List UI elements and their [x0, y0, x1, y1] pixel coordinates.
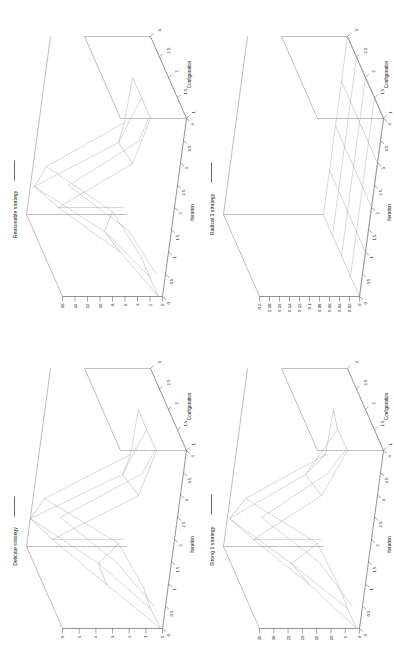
svg-text:1.5: 1.5	[371, 565, 376, 572]
svg-text:1.5: 1.5	[371, 233, 376, 240]
svg-text:1: 1	[143, 634, 148, 637]
svg-text:0.5: 0.5	[168, 609, 173, 616]
svg-text:0.14: 0.14	[287, 302, 292, 311]
svg-text:1.5: 1.5	[379, 419, 384, 426]
svg-text:2.5: 2.5	[377, 520, 382, 527]
svg-text:5: 5	[342, 634, 347, 637]
svg-text:0: 0	[165, 633, 170, 636]
panel-title-radical3: Radical 3 strategy	[208, 193, 214, 235]
svg-text:2.5: 2.5	[165, 46, 170, 53]
svg-text:2.5: 2.5	[180, 520, 185, 527]
svg-text:1: 1	[190, 110, 195, 113]
x-axis-ticks-reasonable	[162, 118, 190, 299]
svg-text:4: 4	[387, 454, 392, 457]
svg-text:2.5: 2.5	[362, 46, 367, 53]
x-axis-ticks-radical3	[359, 118, 387, 299]
svg-text:0.08: 0.08	[317, 302, 322, 311]
panel-strong1-rotated-content: Strong 1 strategy	[197, 332, 394, 664]
svg-text:3.5: 3.5	[383, 144, 388, 151]
svg-text:3: 3	[380, 166, 385, 169]
y-axis-ticks-reasonable	[150, 33, 189, 118]
svg-text:1.5: 1.5	[182, 419, 187, 426]
svg-text:6: 6	[122, 302, 127, 305]
mesh-surface-reasonable	[34, 77, 162, 296]
z-axis-tick-labels-reasonable: 0 2 4 6 8 10 12 14 16	[60, 302, 165, 307]
svg-text:4: 4	[190, 454, 195, 457]
svg-text:0: 0	[357, 634, 362, 637]
svg-text:2: 2	[370, 69, 375, 72]
svg-text:4: 4	[93, 634, 98, 637]
axes-frame-delicate	[26, 368, 186, 628]
svg-text:3: 3	[353, 360, 358, 363]
svg-text:1.5: 1.5	[174, 565, 179, 572]
svg-text:14: 14	[72, 302, 77, 307]
svg-text:10: 10	[328, 634, 333, 639]
svg-text:1.5: 1.5	[174, 233, 179, 240]
svg-text:1: 1	[190, 442, 195, 445]
svg-text:3: 3	[183, 166, 188, 169]
svg-text:0.5: 0.5	[168, 277, 173, 284]
plot-reasonable: Reasonable strategy	[0, 0, 197, 332]
y-axis-ticks-delicate	[150, 365, 189, 450]
svg-text:15: 15	[314, 634, 319, 639]
svg-text:3.5: 3.5	[186, 476, 191, 483]
svg-text:0.02: 0.02	[347, 302, 352, 311]
panel-delicate-rotated-content: Delicate strategy	[0, 332, 197, 664]
plot-delicate: Delicate strategy	[0, 332, 197, 664]
svg-text:0: 0	[362, 301, 367, 304]
svg-text:0.5: 0.5	[365, 609, 370, 616]
panel-radical3: Radical 3 strategy	[197, 0, 394, 332]
svg-text:2: 2	[374, 211, 379, 214]
svg-text:12: 12	[85, 302, 90, 307]
svg-text:5: 5	[76, 634, 81, 637]
panel-title-strong1: Strong 1 strategy	[208, 526, 214, 566]
svg-text:16: 16	[60, 302, 65, 307]
svg-text:0.5: 0.5	[365, 277, 370, 284]
svg-text:2: 2	[374, 543, 379, 546]
axes-frame-reasonable	[26, 36, 186, 296]
panel-strong1: Strong 1 strategy	[197, 332, 394, 664]
svg-text:0: 0	[160, 302, 165, 305]
svg-text:1.5: 1.5	[379, 87, 384, 94]
z-axis-tick-labels-radical3: 0 0.02 0.04 0.06 0.08 0.1 0.12 0.14 0.16…	[257, 302, 362, 311]
svg-text:20: 20	[299, 634, 304, 639]
svg-text:0: 0	[160, 634, 165, 637]
y-axis-title-reasonable: Configuration	[186, 60, 191, 88]
svg-text:1: 1	[387, 442, 392, 445]
svg-text:1: 1	[387, 110, 392, 113]
y-axis-ticks-strong1	[347, 365, 386, 450]
x-axis-title-radical3: Iteration	[386, 203, 391, 220]
svg-text:4: 4	[387, 122, 392, 125]
plot-strong1: Strong 1 strategy	[197, 332, 394, 664]
svg-text:0.04: 0.04	[337, 302, 342, 311]
svg-text:30: 30	[271, 634, 276, 639]
axes-frame-strong1	[223, 368, 383, 628]
svg-text:0: 0	[165, 301, 170, 304]
y-axis-title-radical3: Configuration	[383, 60, 388, 88]
svg-text:3: 3	[156, 360, 161, 363]
svg-text:6: 6	[60, 634, 65, 637]
svg-text:3.5: 3.5	[383, 476, 388, 483]
svg-text:1: 1	[368, 255, 373, 258]
svg-text:3: 3	[183, 498, 188, 501]
svg-text:2.5: 2.5	[180, 188, 185, 195]
svg-text:3: 3	[353, 28, 358, 31]
svg-text:1.5: 1.5	[182, 87, 187, 94]
svg-text:2: 2	[126, 634, 131, 637]
svg-text:1: 1	[171, 587, 176, 590]
panel-delicate: Delicate strategy	[0, 332, 197, 664]
mesh-surface-delicate	[30, 409, 162, 628]
panel-radical3-rotated-content: Radical 3 strategy	[197, 0, 394, 332]
svg-text:4: 4	[190, 122, 195, 125]
svg-text:2: 2	[370, 401, 375, 404]
svg-text:25: 25	[285, 634, 290, 639]
y-axis-title-strong1: Configuration	[383, 392, 388, 420]
svg-text:35: 35	[257, 634, 262, 639]
x-axis-title-strong1: Iteration	[386, 535, 391, 552]
mesh-surface-strong1	[229, 409, 359, 628]
plot-radical3: Radical 3 strategy	[197, 0, 394, 332]
svg-text:0.12: 0.12	[297, 302, 302, 311]
svg-text:2: 2	[173, 401, 178, 404]
x-axis-title-delicate: Iteration	[189, 535, 194, 552]
svg-text:8: 8	[110, 302, 115, 305]
